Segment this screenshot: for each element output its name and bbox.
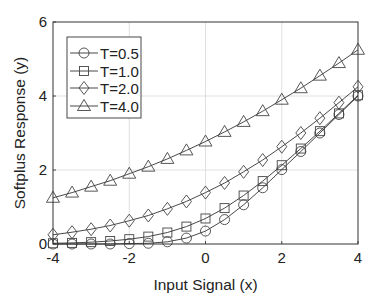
legend: T=0.5T=1.0T=2.0T=4.0 xyxy=(67,37,141,118)
triangle-marker-icon xyxy=(142,160,155,171)
x-axis-label: Input Signal (x) xyxy=(153,276,257,293)
legend-label: T=4.0 xyxy=(100,98,139,115)
triangle-marker-icon xyxy=(161,152,174,163)
x-tick-label: -2 xyxy=(123,249,136,266)
y-tick-label: 6 xyxy=(39,13,47,30)
y-axis-label: Softplus Response (y) xyxy=(11,57,28,210)
softplus-line-chart: -4-20240246 Input Signal (x) Softplus Re… xyxy=(0,0,380,308)
triangle-marker-icon xyxy=(218,125,231,136)
legend-label: T=0.5 xyxy=(100,45,139,62)
legend-label: T=2.0 xyxy=(100,80,139,97)
y-tick-label: 4 xyxy=(39,87,47,104)
y-tick-label: 0 xyxy=(39,235,47,252)
x-tick-label: 0 xyxy=(201,249,209,266)
y-tick-label: 2 xyxy=(39,161,47,178)
x-tick-label: 4 xyxy=(354,249,362,266)
legend-label: T=1.0 xyxy=(100,63,139,80)
triangle-marker-icon xyxy=(180,144,193,155)
x-tick-label: 2 xyxy=(278,249,286,266)
x-tick-label: -4 xyxy=(46,249,59,266)
triangle-marker-icon xyxy=(104,174,117,185)
